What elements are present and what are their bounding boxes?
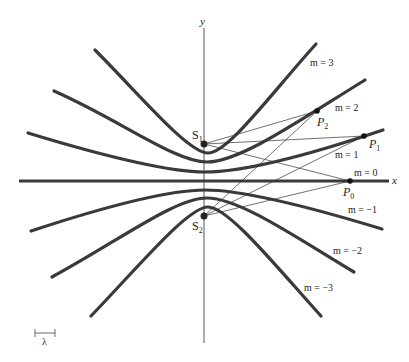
y-axis-label: y — [199, 15, 205, 27]
wavelength-label: λ — [42, 336, 47, 347]
source-s2-label: S2 — [192, 219, 203, 235]
label-m-minus-2: m = −2 — [333, 245, 362, 256]
label-m-2: m = 2 — [335, 102, 358, 113]
label-m-minus-3: m = −3 — [304, 282, 333, 293]
point-p2-label: P2 — [316, 115, 328, 131]
curve-m-3 — [95, 44, 316, 153]
label-m-minus-1: m = −1 — [348, 204, 377, 215]
label-m-0: m = 0 — [354, 167, 377, 178]
point-p1-label: P1 — [368, 137, 380, 153]
source-s2-dot — [201, 213, 208, 220]
curve-m-minus-3 — [91, 207, 321, 316]
point-p2-dot — [314, 108, 320, 114]
source-s1-label: S1 — [192, 128, 203, 144]
curve-m-minus-1 — [31, 190, 382, 231]
point-p0-label: P0 — [342, 185, 354, 201]
curve-m-1 — [28, 130, 383, 172]
label-m-3: m = 3 — [310, 57, 333, 68]
point-p0-dot — [347, 178, 353, 184]
interference-diagram: y x S1 S2 P0 P1 P2 m = 3 m = 2 m = 1 m =… — [0, 0, 409, 362]
point-p1-dot — [361, 133, 367, 139]
label-m-1: m = 1 — [335, 149, 358, 160]
path-rays — [204, 111, 364, 216]
x-axis-label: x — [391, 174, 397, 186]
